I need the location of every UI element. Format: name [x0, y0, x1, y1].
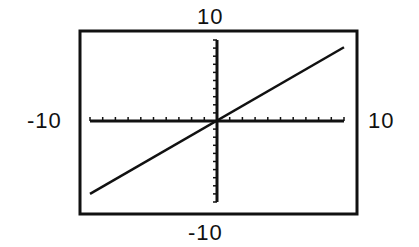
graph-window [0, 0, 419, 247]
